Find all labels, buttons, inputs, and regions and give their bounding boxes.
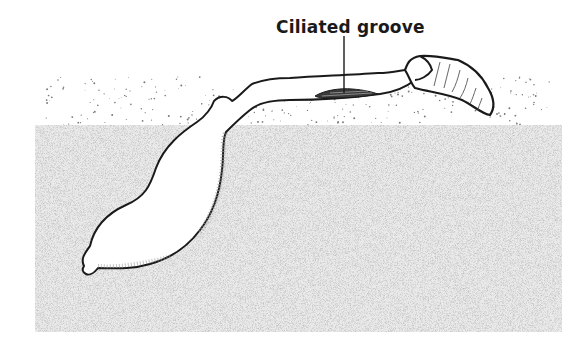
stipple-dot — [111, 114, 113, 116]
stipple-dot — [452, 105, 453, 106]
stipple-dot — [500, 87, 501, 88]
stipple-dot — [62, 88, 64, 90]
stipple-dot — [71, 116, 73, 118]
stipple-dot — [201, 103, 203, 105]
stipple-dot — [342, 121, 344, 123]
stipple-dot — [315, 121, 317, 123]
stipple-dot — [311, 120, 312, 121]
stipple-dot — [408, 86, 409, 87]
stipple-dot — [178, 88, 179, 89]
stipple-dot — [444, 108, 445, 109]
stipple-dot — [191, 114, 193, 116]
stipple-dot — [120, 108, 121, 109]
stipple-dot — [390, 94, 392, 96]
stipple-dot — [63, 124, 64, 125]
stipple-dot — [549, 81, 550, 82]
stipple-dot — [187, 119, 189, 121]
stipple-dot — [335, 102, 336, 103]
stipple-dot — [414, 112, 415, 113]
stipple-dot — [142, 120, 144, 122]
stipple-dot — [491, 88, 492, 89]
stipple-dot — [180, 116, 182, 118]
stipple-dot — [309, 103, 310, 104]
stipple-dot — [281, 109, 283, 111]
stipple-dot — [396, 104, 398, 106]
stipple-dot — [533, 84, 535, 86]
stipple-dot — [114, 102, 116, 104]
stipple-dot — [212, 89, 213, 90]
stipple-dot — [519, 123, 521, 125]
stipple-dot — [262, 121, 264, 123]
stipple-dot — [366, 104, 367, 105]
stipple-dot — [333, 117, 335, 119]
stipple-dot — [435, 95, 437, 97]
stipple-dot — [87, 118, 88, 119]
stipple-dot — [128, 77, 129, 78]
stipple-dot — [516, 123, 517, 124]
stipple-dot — [529, 79, 531, 81]
stipple-dot — [208, 104, 209, 105]
stipple-dot — [423, 93, 425, 95]
stipple-dot — [263, 108, 264, 109]
stipple-dot — [179, 123, 180, 124]
stipple-dot — [337, 122, 339, 124]
stipple-dot — [152, 109, 153, 110]
stipple-dot — [151, 120, 152, 121]
stipple-dot — [533, 94, 535, 96]
stipple-dot — [419, 122, 421, 124]
stipple-dot — [126, 89, 127, 90]
stipple-dot — [280, 121, 281, 122]
stipple-dot — [541, 109, 542, 110]
stipple-dot — [165, 90, 166, 91]
stipple-dot — [422, 109, 423, 110]
stipple-dot — [271, 111, 272, 112]
stipple-dot — [417, 111, 419, 113]
stipple-dot — [408, 91, 410, 93]
stipple-dot — [475, 110, 477, 112]
stipple-dot — [103, 93, 104, 94]
stipple-dot — [525, 107, 527, 109]
stipple-dot — [49, 100, 50, 101]
ciliated-groove-label: Ciliated groove — [276, 17, 425, 37]
stipple-dot — [499, 115, 500, 116]
stipple-dot — [156, 92, 157, 93]
stipple-dot — [188, 117, 190, 119]
stipple-dot — [126, 119, 127, 120]
stipple-dot — [57, 79, 59, 81]
stipple-dot — [515, 80, 516, 81]
stipple-dot — [334, 116, 335, 117]
stipple-dot — [509, 120, 511, 122]
stipple-dot — [504, 114, 505, 115]
stipple-dot — [151, 98, 152, 99]
stipple-dot — [284, 101, 285, 102]
stipple-dot — [141, 108, 143, 110]
proboscis-outline — [405, 56, 493, 115]
stipple-dot — [254, 112, 255, 113]
stipple-dot — [397, 92, 398, 93]
stipple-dot — [284, 112, 285, 113]
stipple-dot — [81, 115, 82, 116]
stipple-dot — [451, 111, 453, 113]
stipple-dot — [98, 89, 100, 91]
stipple-dot — [115, 79, 116, 80]
stipple-dot — [187, 122, 188, 123]
stipple-dot — [344, 116, 345, 117]
stipple-dot — [529, 78, 530, 79]
stipple-dot — [337, 115, 338, 116]
stipple-dot — [104, 122, 105, 123]
stipple-dot — [290, 115, 291, 116]
stipple-dot — [185, 85, 186, 86]
stipple-dot — [46, 88, 48, 90]
stipple-dot — [126, 96, 127, 97]
stipple-dot — [148, 99, 149, 100]
stipple-dot — [92, 81, 93, 82]
stipple-dot — [533, 102, 535, 104]
stipple-dot — [342, 109, 343, 110]
stipple-dot — [164, 95, 166, 97]
stipple-dot — [522, 94, 523, 95]
stipple-dot — [90, 102, 91, 103]
stipple-dot — [536, 93, 537, 94]
stipple-dot — [503, 78, 505, 80]
stipple-dot — [51, 96, 53, 98]
stipple-dot — [121, 97, 122, 98]
